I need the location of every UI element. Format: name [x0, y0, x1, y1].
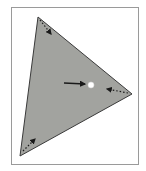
center-point — [88, 82, 94, 88]
triangle-diagram — [0, 0, 146, 171]
triangle-shape — [20, 17, 132, 156]
